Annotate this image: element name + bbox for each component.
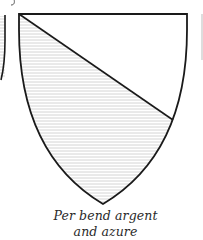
stray-glyph-mark — [11, 0, 14, 5]
main-shield — [0, 0, 203, 240]
left-neighbor-shield-fragment — [0, 15, 5, 80]
shield-illustration — [0, 0, 203, 240]
heraldry-figure: Per bend argent and azure — [0, 0, 203, 240]
caption-line-1: Per bend argent — [4, 208, 203, 223]
caption-line-2: and azure — [4, 224, 203, 239]
